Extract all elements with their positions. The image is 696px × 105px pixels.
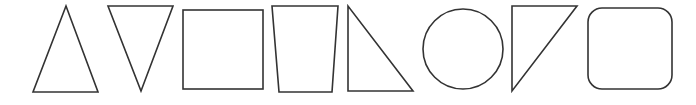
- right-triangle-shape: [348, 6, 413, 91]
- triangle-up-shape: [33, 6, 98, 92]
- square-shape: [183, 10, 263, 89]
- triangle-down-shape: [108, 6, 173, 91]
- rounded-square-shape: [588, 8, 672, 89]
- circle-shape: [423, 9, 503, 89]
- trapezoid-shape: [272, 6, 338, 92]
- shapes-canvas: [0, 0, 696, 105]
- right-triangle-flipped-shape: [512, 6, 577, 91]
